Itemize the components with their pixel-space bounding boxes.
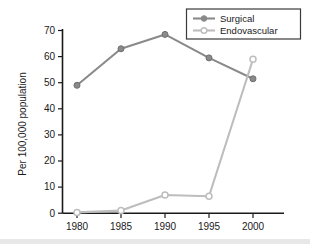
y-tick-label-20: 20 (44, 155, 56, 166)
line-chart: Per 100,000 population 70 60 50 40 30 20… (0, 0, 310, 244)
x-tick-label-1990: 1990 (154, 221, 177, 232)
y-tick-label-60: 60 (44, 51, 56, 62)
bottom-band (0, 239, 310, 244)
x-tick-label-1985: 1985 (110, 221, 133, 232)
y-tick-label-50: 50 (44, 77, 56, 88)
y-tick-label-30: 30 (44, 129, 56, 140)
data-point[interactable] (74, 209, 80, 215)
chart-legend: Surgical Endovascular (187, 9, 301, 39)
data-point[interactable] (162, 31, 168, 37)
legend-label-endovascular: Endovascular (220, 25, 278, 36)
series-surgical (74, 31, 256, 88)
series-line-surgical (77, 34, 253, 85)
y-tick-label-10: 10 (44, 181, 56, 192)
series-layer (74, 31, 256, 215)
data-point[interactable] (250, 76, 256, 82)
data-point[interactable] (250, 56, 256, 62)
series-line-endovascular (77, 59, 253, 212)
x-tick-label-1980: 1980 (66, 221, 89, 232)
legend-marker-surgical (201, 16, 207, 22)
x-tick-label-1995: 1995 (198, 221, 221, 232)
data-point[interactable] (206, 193, 212, 199)
y-axis-title: Per 100,000 population (17, 72, 28, 175)
data-point[interactable] (206, 55, 212, 61)
data-point[interactable] (162, 192, 168, 198)
data-point[interactable] (118, 208, 124, 214)
legend-label-surgical: Surgical (220, 13, 254, 24)
legend-marker-endovascular (201, 28, 207, 34)
series-endovascular (74, 56, 256, 215)
data-point[interactable] (118, 46, 124, 52)
data-point[interactable] (74, 82, 80, 88)
y-tick-label-0: 0 (49, 208, 55, 219)
x-tick-label-2000: 2000 (242, 221, 265, 232)
y-tick-label-70: 70 (44, 25, 56, 36)
y-tick-label-40: 40 (44, 103, 56, 114)
chart-container: Per 100,000 population 70 60 50 40 30 20… (0, 0, 310, 244)
